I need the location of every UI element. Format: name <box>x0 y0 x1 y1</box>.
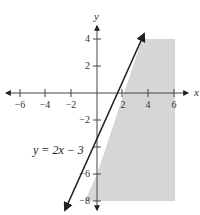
x-tick-label: −4 <box>40 99 51 110</box>
equation-label: y = 2x − 3 <box>32 143 84 157</box>
x-tick-label: 6 <box>172 99 177 110</box>
y-tick-label: −2 <box>79 114 90 125</box>
y-tick-label: 4 <box>85 33 90 44</box>
x-tick-label: −6 <box>15 99 26 110</box>
y-tick-label: 2 <box>85 60 90 71</box>
y-tick-label: −8 <box>79 195 90 206</box>
x-tick-label: −2 <box>66 99 77 110</box>
graph: −6 −4 −2 2 4 6 4 2 −2 −6 −8 x y y = 2x −… <box>0 0 200 215</box>
x-axis-label: x <box>193 86 199 98</box>
x-tick-label: 4 <box>146 99 151 110</box>
x-tick-label: 2 <box>121 99 126 110</box>
y-axis-label: y <box>93 10 99 22</box>
